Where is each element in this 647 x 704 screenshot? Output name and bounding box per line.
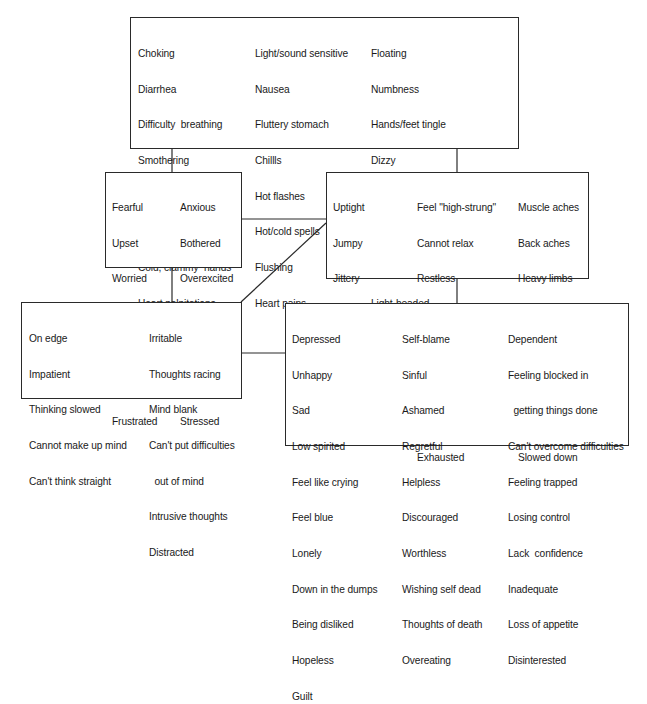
- list-item: out of mind: [149, 476, 235, 488]
- list-item: Difficulty breathing: [138, 119, 231, 131]
- list-item: Feeling blocked in: [508, 370, 624, 382]
- list-item: Down in the dumps: [292, 584, 378, 596]
- physical-symptoms-box: Choking Diarrhea Difficulty breathing Sm…: [130, 17, 519, 149]
- list-item: Nausea: [255, 84, 348, 96]
- list-item: Intrusive thoughts: [149, 511, 235, 523]
- list-item: Loss of appetite: [508, 619, 624, 631]
- list-item: Floating: [371, 48, 514, 60]
- list-item: Wishing self dead: [402, 584, 482, 596]
- list-item: Thinking slowed: [29, 404, 127, 416]
- cognitive-col-2: Irritable Thoughts racing Mind blank Can…: [149, 309, 235, 583]
- list-item: Muscle aches: [518, 202, 579, 214]
- tension-box: Uptight Jumpy Jittery Tense Keyed up Han…: [326, 172, 589, 279]
- list-item: Being disliked: [292, 619, 378, 631]
- list-item: Sinful: [402, 370, 482, 382]
- list-item: Helpless: [402, 477, 482, 489]
- list-item: Jittery: [333, 273, 394, 285]
- list-item: Can't put difficulties: [149, 440, 235, 452]
- list-item: On edge: [29, 333, 127, 345]
- depressive-col-2: Self-blame Sinful Ashamed Regretful Help…: [402, 310, 482, 691]
- list-item: Fearful: [112, 202, 157, 214]
- list-item: Choking: [138, 48, 231, 60]
- list-item: Irritable: [149, 333, 235, 345]
- list-item: Numbness: [371, 84, 514, 96]
- list-item: Unhappy: [292, 370, 378, 382]
- list-item: Self-blame: [402, 334, 482, 346]
- list-item: Smothering: [138, 155, 231, 167]
- list-item: Losing control: [508, 512, 624, 524]
- list-item: Upset: [112, 238, 157, 250]
- list-item: Cannot make up mind: [29, 440, 127, 452]
- list-item: Fluttery stomach: [255, 119, 348, 131]
- list-item: Sad: [292, 405, 378, 417]
- list-item: Overeating: [402, 655, 482, 667]
- list-item: Can't overcome difficulties: [508, 441, 624, 453]
- list-item: Guilt: [292, 691, 378, 703]
- list-item: Disinterested: [508, 655, 624, 667]
- list-item: Worried: [112, 273, 157, 285]
- list-item: Regretful: [402, 441, 482, 453]
- list-item: Can't think straight: [29, 476, 127, 488]
- list-item: Back aches: [518, 238, 579, 250]
- list-item: Bothered: [180, 238, 233, 250]
- list-item: Restless: [417, 273, 496, 285]
- cognitive-box: On edge Impatient Thinking slowed Cannot…: [21, 302, 242, 399]
- list-item: Feel "high-strung": [417, 202, 496, 214]
- depressive-col-1: Depressed Unhappy Sad Low spirited Feel …: [292, 310, 378, 704]
- list-item: Feel blue: [292, 512, 378, 524]
- list-item: Thoughts of death: [402, 619, 482, 631]
- list-item: Lonely: [292, 548, 378, 560]
- list-item: Light/sound sensitive: [255, 48, 348, 60]
- list-item: Low spirited: [292, 441, 378, 453]
- list-item: getting things done: [508, 405, 624, 417]
- list-item: Overexcited: [180, 273, 233, 285]
- cognitive-col-1: On edge Impatient Thinking slowed Cannot…: [29, 309, 127, 511]
- list-item: Feel like crying: [292, 477, 378, 489]
- list-item: Jumpy: [333, 238, 394, 250]
- list-item: Distracted: [149, 547, 235, 559]
- list-item: Hands/feet tingle: [371, 119, 514, 131]
- list-item: Uptight: [333, 202, 394, 214]
- list-item: Diarrhea: [138, 84, 231, 96]
- list-item: Impatient: [29, 369, 127, 381]
- list-item: Ashamed: [402, 405, 482, 417]
- list-item: Thoughts racing: [149, 369, 235, 381]
- list-item: Dependent: [508, 334, 624, 346]
- list-item: Anxious: [180, 202, 233, 214]
- depressive-box: Depressed Unhappy Sad Low spirited Feel …: [285, 303, 629, 446]
- emotional-box: Fearful Upset Worried Troubled Nervous S…: [105, 172, 242, 268]
- list-item: Worthless: [402, 548, 482, 560]
- depressive-col-3: Dependent Feeling blocked in getting thi…: [508, 310, 624, 691]
- list-item: Hopeless: [292, 655, 378, 667]
- list-item: Heavy limbs: [518, 273, 579, 285]
- list-item: Feeling trapped: [508, 477, 624, 489]
- list-item: Cannot relax: [417, 238, 496, 250]
- list-item: Chillls: [255, 155, 348, 167]
- list-item: Depressed: [292, 334, 378, 346]
- list-item: Inadequate: [508, 584, 624, 596]
- list-item: Lack confidence: [508, 548, 624, 560]
- list-item: Mind blank: [149, 404, 235, 416]
- list-item: Dizzy: [371, 155, 514, 167]
- list-item: Discouraged: [402, 512, 482, 524]
